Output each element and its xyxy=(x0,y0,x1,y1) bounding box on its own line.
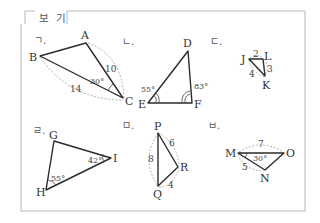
triangles-figure: 보 기 ㄱ. A B C 10 14 30° ㄴ. D E F 55° 83° … xyxy=(0,0,320,223)
angle-c-arc xyxy=(108,84,113,91)
vertex-i: I xyxy=(113,152,117,165)
triangle-abc: ㄱ. A B C 10 14 30° xyxy=(29,29,133,108)
angle-f-arc xyxy=(185,94,190,103)
angle-e-arc xyxy=(153,96,156,103)
angle-f-measure: 83° xyxy=(194,82,208,91)
frame-title: 보 기 xyxy=(39,12,68,24)
vertex-e: E xyxy=(138,98,146,111)
vertex-c: C xyxy=(125,95,133,108)
section-label-rieul: ㄹ. xyxy=(33,125,45,136)
side-pq-length: 8 xyxy=(148,154,154,164)
vertex-q: Q xyxy=(153,188,162,201)
angle-h-measure: 55° xyxy=(51,174,65,183)
angle-i-measure: 42° xyxy=(88,156,102,165)
triangle-pqr-edges xyxy=(158,133,178,186)
vertex-b: B xyxy=(29,51,37,64)
section-label-giyeok: ㄱ. xyxy=(34,35,46,46)
vertex-o: O xyxy=(286,147,295,160)
vertex-n: N xyxy=(260,172,270,185)
vertex-k: K xyxy=(262,79,271,92)
section-label-digeut: ㄷ. xyxy=(210,36,222,47)
side-pr-length: 6 xyxy=(169,138,175,148)
vertex-p: P xyxy=(154,120,162,133)
section-label-bieup: ㅂ. xyxy=(208,120,220,131)
triangle-def: ㄴ. D E F 55° 83° xyxy=(122,36,208,111)
vertex-g: G xyxy=(49,129,58,142)
section-label-mieum: ㅁ. xyxy=(122,120,134,131)
section-label-nieun: ㄴ. xyxy=(122,36,134,47)
vertex-d: D xyxy=(183,37,192,50)
angle-m-measure: 30° xyxy=(253,154,267,163)
triangle-jlk: ㄷ. J L K 2 3 4 xyxy=(210,36,273,92)
triangle-mno: ㅂ. M N O 7 5 30° xyxy=(208,120,295,185)
vertex-l: L xyxy=(264,50,272,63)
side-jl-length: 2 xyxy=(253,49,259,59)
side-lk-length: 3 xyxy=(267,64,273,74)
vertex-m: M xyxy=(225,147,236,160)
triangle-ghi: ㄹ. G H I 42° 55° xyxy=(33,125,117,199)
side-mo-length: 7 xyxy=(258,139,264,149)
vertex-j: J xyxy=(240,53,245,66)
vertex-a: A xyxy=(80,29,90,42)
triangle-def-edges xyxy=(148,51,192,103)
side-bc-length: 14 xyxy=(70,84,82,94)
side-ac-length: 10 xyxy=(105,64,117,74)
frame-left-bracket xyxy=(25,11,35,24)
side-jk-length: 4 xyxy=(249,69,255,79)
vertex-h: H xyxy=(36,186,46,199)
side-mn-length: 5 xyxy=(242,162,248,172)
vertex-r: R xyxy=(180,161,189,174)
side-qr-length: 4 xyxy=(168,180,174,190)
angle-e-measure: 55° xyxy=(141,85,155,94)
triangle-pqr: ㅁ. P Q R 8 6 4 xyxy=(122,120,189,201)
vertex-f: F xyxy=(194,98,202,111)
angle-c-measure: 30° xyxy=(90,77,104,86)
